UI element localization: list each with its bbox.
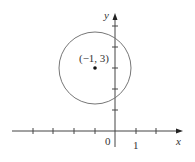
coordinate-plane: (−1, 3) y x 0 1 (0, 0, 195, 162)
x-axis-arrow-icon (176, 129, 183, 134)
origin-label: 0 (105, 135, 111, 147)
y-axis-arrow-icon (113, 13, 118, 20)
y-axis (112, 13, 118, 147)
x-tick-label-1: 1 (133, 139, 139, 151)
center-label: (−1, 3) (79, 52, 109, 65)
circle-graph-figure: (−1, 3) y x 0 1 (0, 0, 195, 162)
y-axis-label: y (103, 9, 109, 21)
center-point (93, 66, 97, 70)
x-axis (12, 128, 183, 134)
x-axis-label: x (175, 135, 181, 147)
